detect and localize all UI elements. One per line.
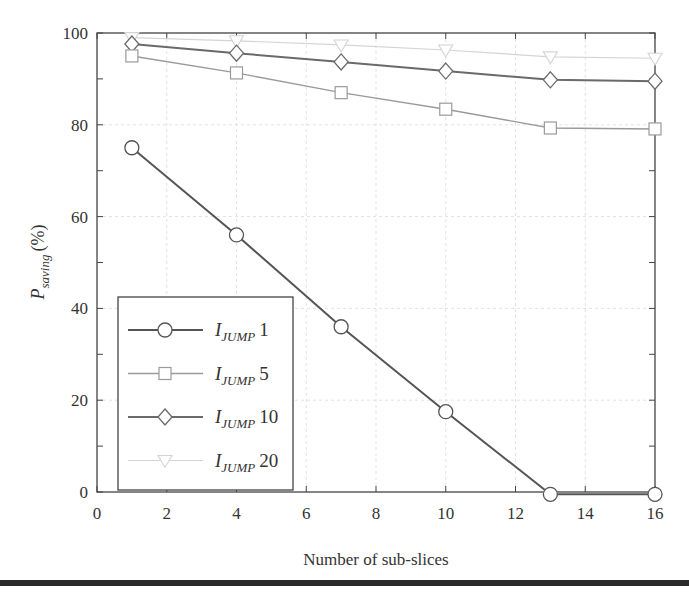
y-axis-label-main: P <box>28 288 48 300</box>
triangle-down-marker-icon <box>543 52 557 64</box>
legend: IJUMP1IJUMP5IJUMP10IJUMP20 <box>118 297 293 490</box>
diamond-marker-icon <box>648 73 662 89</box>
circle-marker-icon <box>230 228 244 242</box>
y-tick-label: 0 <box>80 483 89 502</box>
x-tick-label: 8 <box>372 504 381 523</box>
x-tick-label: 14 <box>577 504 595 523</box>
y-tick-label: 40 <box>71 299 88 318</box>
y-tick-label: 60 <box>71 208 88 227</box>
line-chart-svg: 0246810121416020406080100 IJUMP1IJUMP5IJ… <box>0 0 689 598</box>
circle-marker-icon <box>158 323 172 337</box>
x-tick-label: 4 <box>232 504 241 523</box>
x-tick-label: 12 <box>507 504 524 523</box>
triangle-down-marker-icon <box>439 45 453 57</box>
circle-marker-icon <box>334 320 348 334</box>
series-i-jump-20 <box>125 33 662 66</box>
x-tick-label: 2 <box>163 504 172 523</box>
triangle-down-marker-icon <box>648 53 662 65</box>
square-marker-icon <box>335 87 347 99</box>
y-tick-label: 80 <box>71 116 88 135</box>
square-marker-icon <box>440 103 452 115</box>
y-axis-label-suffix: (%) <box>28 225 49 252</box>
square-marker-icon <box>159 368 171 380</box>
diamond-marker-icon <box>334 54 348 70</box>
x-tick-label: 0 <box>93 504 102 523</box>
circle-marker-icon <box>648 487 662 501</box>
square-marker-icon <box>649 123 661 135</box>
series-line <box>132 38 655 59</box>
x-tick-label: 10 <box>437 504 454 523</box>
square-marker-icon <box>126 50 138 62</box>
y-tick-label: 100 <box>63 24 89 43</box>
chart: 0246810121416020406080100 IJUMP1IJUMP5IJ… <box>0 0 689 598</box>
x-axis-label: Number of sub-slices <box>303 550 448 569</box>
series-i-jump-5 <box>126 50 661 135</box>
series-line <box>132 44 655 81</box>
y-tick-label: 20 <box>71 391 88 410</box>
triangle-down-marker-icon <box>334 40 348 52</box>
diamond-marker-icon <box>543 72 557 88</box>
diamond-marker-icon <box>230 45 244 61</box>
x-tick-label: 6 <box>302 504 311 523</box>
y-axis-label-sub: saving <box>37 254 52 288</box>
y-axis-label: Psaving(%) <box>28 225 52 301</box>
circle-marker-icon <box>125 141 139 155</box>
circle-marker-icon <box>439 405 453 419</box>
series-i-jump-10 <box>125 36 662 89</box>
square-marker-icon <box>231 67 243 79</box>
page-divider <box>0 580 689 586</box>
circle-marker-icon <box>543 487 557 501</box>
square-marker-icon <box>544 122 556 134</box>
x-tick-label: 16 <box>647 504 664 523</box>
diamond-marker-icon <box>439 63 453 79</box>
